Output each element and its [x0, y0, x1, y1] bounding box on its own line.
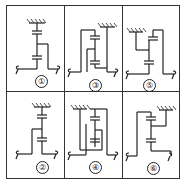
diagram-cell-2: ②: [7, 92, 65, 178]
diagram-cell-3: ③: [65, 6, 123, 92]
diagram-grid: ① ③: [6, 5, 180, 179]
diagram-cell-1: ①: [7, 6, 65, 92]
variant-label: ④: [89, 161, 102, 174]
diagram-cell-5: ⑤: [123, 6, 181, 92]
variant-label: ①: [35, 75, 48, 88]
variant-label: ⑥: [147, 162, 160, 175]
diagram-cell-4: ④: [65, 92, 123, 178]
variant-label: ⑤: [143, 79, 156, 92]
variant-label: ②: [36, 161, 49, 174]
diagram-cell-6: ⑥: [123, 92, 181, 178]
variant-label: ③: [89, 79, 102, 92]
